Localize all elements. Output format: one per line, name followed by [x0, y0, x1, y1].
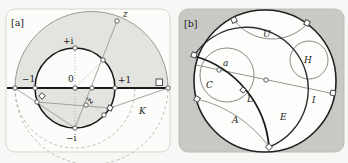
right-angle-marker-axis-right [156, 79, 163, 86]
label-z: z [122, 9, 128, 19]
panel-b-tag: [b] [184, 18, 198, 29]
label-U: U [263, 29, 271, 39]
label-H: H [303, 55, 312, 65]
figure-canvas: [a] z +i −1 0 +1 z̄ −i K [0, 0, 348, 163]
label-minus-i: −i [66, 133, 77, 143]
point-marker-circle-lower-right [102, 113, 106, 117]
panel-b: [b] U H C a L I E A [179, 9, 344, 152]
point-marker-plus-one [113, 86, 117, 90]
point-marker-minus-one [33, 86, 37, 90]
label-K: K [138, 106, 147, 116]
point-marker-axis-crossing [90, 86, 94, 90]
label-C: C [206, 80, 213, 90]
point-marker-plus-i [73, 46, 77, 50]
label-A: A [231, 115, 239, 125]
label-minus-one: −1 [22, 74, 35, 84]
right-angle-marker-L-top [191, 52, 197, 58]
point-marker-origin [73, 86, 77, 90]
point-marker-circle-upper [101, 58, 105, 62]
label-a: a [223, 58, 228, 68]
label-E: E [279, 112, 287, 122]
point-marker-circle-lower-left [35, 100, 39, 104]
label-L: L [246, 94, 253, 104]
point-marker-z [115, 19, 119, 23]
point-marker-z-bar [84, 103, 88, 107]
point-marker-minus-i [73, 126, 77, 130]
label-plus-i: +i [63, 36, 74, 46]
two-panel-diagram: [a] z +i −1 0 +1 z̄ −i K [0, 0, 348, 163]
right-angle-marker-I-right [330, 90, 336, 96]
point-marker-right-end [166, 86, 170, 90]
point-marker-a [217, 68, 221, 72]
point-marker-left-end [13, 86, 17, 90]
label-zero: 0 [68, 74, 74, 84]
point-marker-disk-center [264, 78, 268, 82]
label-I: I [311, 95, 316, 105]
label-plus-one: +1 [118, 75, 131, 85]
panel-a: [a] z +i −1 0 +1 z̄ −i K [6, 9, 170, 163]
panel-a-tag: [a] [11, 17, 24, 28]
